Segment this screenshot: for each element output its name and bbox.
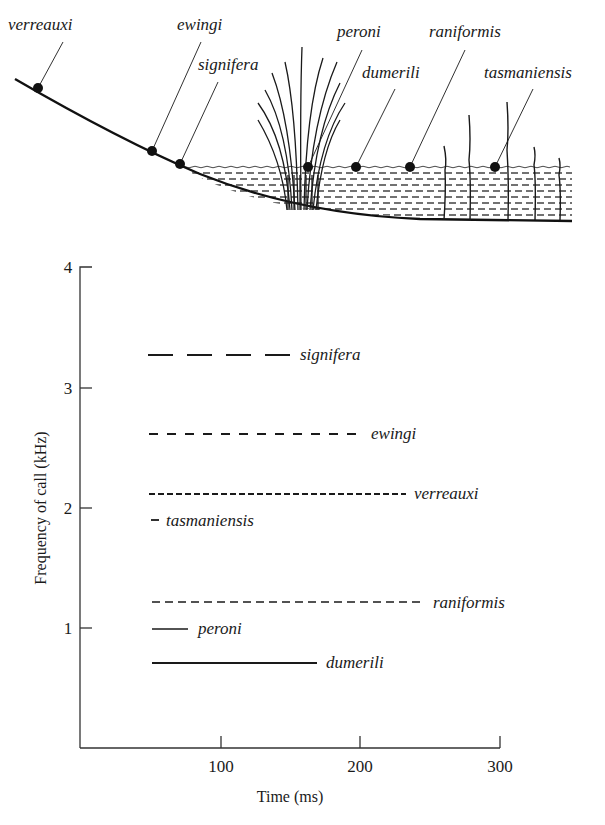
y-tick-3: 3	[64, 379, 73, 398]
x-tick-100: 100	[208, 757, 234, 776]
emergent-stems-icon	[444, 102, 560, 220]
habitat-label-tasmaniensis: tasmaniensis	[484, 63, 572, 82]
habitat-label-raniformis: raniformis	[429, 22, 501, 41]
series-label-ewingi: ewingi	[371, 424, 417, 443]
x-tick-200: 200	[347, 757, 373, 776]
x-tick-300: 300	[487, 757, 513, 776]
frog-dot-peroni	[303, 162, 313, 172]
series-label-verreauxi: verreauxi	[414, 484, 479, 503]
habitat-label-verreauxi: verreauxi	[8, 15, 73, 34]
habitat-label-ewingi: ewingi	[177, 15, 223, 34]
habitat-label-peroni: peroni	[336, 22, 381, 41]
y-tick-4: 4	[64, 258, 73, 277]
y-tick-1: 1	[64, 619, 73, 638]
frog-dot-dumerili	[351, 162, 361, 172]
frog-dot-signifera	[175, 159, 185, 169]
series-label-signifera: signifera	[300, 345, 360, 364]
series-lines	[148, 355, 424, 663]
series-label-raniformis: raniformis	[433, 593, 505, 612]
habitat-label-dumerili: dumerili	[362, 63, 420, 82]
water-body	[170, 166, 575, 215]
frog-call-figure: verreauxi ewingi signifera peroni dumeri…	[0, 0, 605, 825]
y-tick-2: 2	[64, 499, 73, 518]
frog-dot-ewingi	[147, 146, 157, 156]
series-label-dumerili: dumerili	[326, 653, 384, 672]
frog-dot-verreauxi	[33, 83, 43, 93]
series-label-peroni: peroni	[197, 619, 242, 638]
water-surface	[180, 166, 570, 168]
y-axis-title: Frequency of call (kHz)	[32, 431, 50, 584]
x-axis-title: Time (ms)	[257, 788, 324, 806]
call-frequency-chart: 4 3 2 1 100 200 300 Time (ms) Frequency …	[32, 258, 513, 806]
chart-axes	[80, 267, 500, 748]
frog-dot-tasmaniensis	[490, 162, 500, 172]
habitat-label-signifera: signifera	[198, 55, 258, 74]
series-label-tasmaniensis: tasmaniensis	[166, 511, 254, 530]
habitat-diagram: verreauxi ewingi signifera peroni dumeri…	[8, 15, 575, 221]
frog-dot-raniformis	[405, 162, 415, 172]
